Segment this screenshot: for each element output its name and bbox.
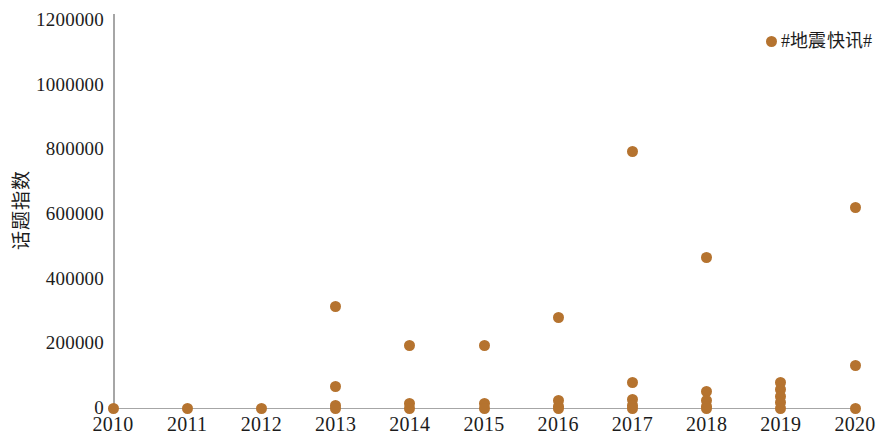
y-tick-label: 1200000 xyxy=(0,10,104,29)
data-point[interactable] xyxy=(256,403,267,414)
x-tick-label-2011: 2011 xyxy=(147,413,227,435)
x-tick-label-2019: 2019 xyxy=(741,413,821,435)
legend-marker-icon xyxy=(766,36,777,47)
data-point[interactable] xyxy=(627,377,638,388)
data-point[interactable] xyxy=(850,403,861,414)
data-point[interactable] xyxy=(775,403,786,414)
data-point[interactable] xyxy=(701,252,712,263)
data-point[interactable] xyxy=(479,403,490,414)
x-tick-label-2010: 2010 xyxy=(73,413,153,435)
x-tick-label-2016: 2016 xyxy=(518,413,598,435)
data-point[interactable] xyxy=(330,403,341,414)
data-point[interactable] xyxy=(701,403,712,414)
x-tick-label-2015: 2015 xyxy=(444,413,524,435)
data-point[interactable] xyxy=(330,381,341,392)
y-tick-label: 200000 xyxy=(0,333,104,352)
data-point[interactable] xyxy=(627,403,638,414)
data-point[interactable] xyxy=(850,360,861,371)
x-tick-label-2018: 2018 xyxy=(667,413,747,435)
x-tick-label-2020: 2020 xyxy=(815,413,893,435)
x-tick-label-2017: 2017 xyxy=(592,413,672,435)
x-tick-label-2013: 2013 xyxy=(296,413,376,435)
y-tick-label: 400000 xyxy=(0,269,104,288)
legend-label: #地震快讯# xyxy=(781,32,872,51)
y-axis-title: 话题指数 xyxy=(12,150,32,270)
data-point[interactable] xyxy=(404,340,415,351)
data-point[interactable] xyxy=(850,202,861,213)
scatter-chart: 120000010000008000006000004000002000000 … xyxy=(0,0,893,444)
data-point[interactable] xyxy=(627,146,638,157)
chart-legend[interactable]: #地震快讯# xyxy=(766,32,872,51)
y-axis-line xyxy=(113,14,115,408)
data-point[interactable] xyxy=(553,312,564,323)
data-point[interactable] xyxy=(330,301,341,312)
data-point[interactable] xyxy=(404,403,415,414)
data-point[interactable] xyxy=(479,340,490,351)
plot-area: 120000010000008000006000004000002000000 … xyxy=(0,0,893,444)
x-tick-label-2014: 2014 xyxy=(370,413,450,435)
data-point[interactable] xyxy=(553,403,564,414)
x-tick-label-2012: 2012 xyxy=(221,413,301,435)
y-tick-label: 1000000 xyxy=(0,75,104,94)
data-point[interactable] xyxy=(182,403,193,414)
data-point[interactable] xyxy=(108,403,119,414)
